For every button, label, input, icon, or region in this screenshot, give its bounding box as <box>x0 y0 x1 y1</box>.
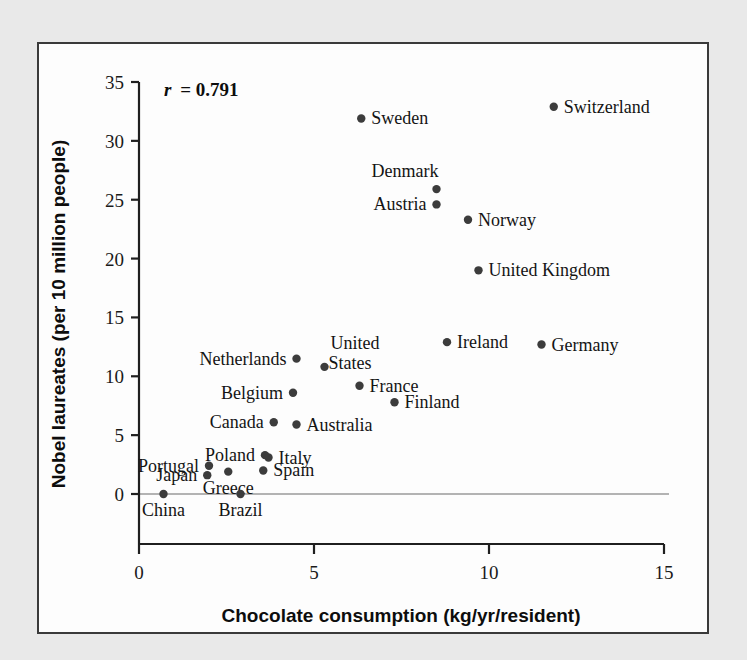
data-point[interactable]: Spain <box>259 460 314 480</box>
data-point-label: Finland <box>405 392 460 412</box>
x-tick-label: 10 <box>480 562 499 583</box>
data-point-label: Canada <box>210 412 264 432</box>
data-point[interactable]: Belgium <box>221 383 297 403</box>
y-tick-label: 15 <box>105 307 124 328</box>
data-point-dot[interactable] <box>270 418 278 426</box>
scatter-plot: 05101520253035 051015 SwitzerlandSwedenD… <box>39 44 707 632</box>
data-point-label: Netherlands <box>200 349 287 369</box>
data-point-dot[interactable] <box>159 490 167 498</box>
data-point-dot[interactable] <box>390 398 398 406</box>
data-point-label: Norway <box>478 210 536 230</box>
data-point[interactable]: UnitedStates <box>320 333 379 373</box>
data-point-label: Spain <box>273 460 314 480</box>
data-point-dot[interactable] <box>550 103 558 111</box>
data-point[interactable]: Netherlands <box>200 349 301 369</box>
correlation-symbol: r <box>164 79 172 100</box>
data-point-dot[interactable] <box>203 471 211 479</box>
data-point-dot[interactable] <box>261 451 269 459</box>
y-tick-label: 35 <box>105 72 124 93</box>
data-point-dot[interactable] <box>443 338 451 346</box>
data-point-dot[interactable] <box>474 266 482 274</box>
data-point[interactable]: Poland <box>205 445 269 465</box>
data-point-label: UnitedStates <box>329 333 380 373</box>
data-point-dot[interactable] <box>224 467 232 475</box>
y-tick-label: 0 <box>115 484 125 505</box>
data-point-dot[interactable] <box>205 462 213 470</box>
y-tick-label: 30 <box>105 131 124 152</box>
data-point-dot[interactable] <box>292 354 300 362</box>
data-point-label: Austria <box>374 194 427 214</box>
data-point-dot[interactable] <box>320 363 328 371</box>
data-point-label: Brazil <box>219 500 263 520</box>
data-point[interactable]: Australia <box>292 415 372 435</box>
data-point-label: Japan <box>156 465 197 485</box>
y-tick-label: 5 <box>115 425 125 446</box>
y-tick-label: 20 <box>105 249 124 270</box>
data-point-dot[interactable] <box>289 389 297 397</box>
data-point-dot[interactable] <box>357 114 365 122</box>
data-point[interactable]: Ireland <box>443 332 508 352</box>
correlation-annotation: r = 0.791 <box>164 79 238 100</box>
chart-panel: 05101520253035 051015 SwitzerlandSwedenD… <box>37 42 709 634</box>
data-point[interactable]: United Kingdom <box>474 260 610 280</box>
data-point-label: Switzerland <box>564 97 650 117</box>
correlation-value: = 0.791 <box>180 79 238 100</box>
data-point-label: Greece <box>203 478 254 498</box>
data-point[interactable]: Greece <box>203 467 254 497</box>
data-point[interactable]: Austria <box>374 194 441 214</box>
data-point-label: Australia <box>307 415 373 435</box>
data-point[interactable]: Canada <box>210 412 278 432</box>
data-point-dot[interactable] <box>236 490 244 498</box>
x-tick-label: 5 <box>309 562 319 583</box>
y-axis-title: Nobel laureates (per 10 million people) <box>48 140 69 488</box>
y-axis-ticks: 05101520253035 <box>105 72 139 505</box>
x-tick-label: 15 <box>655 562 674 583</box>
data-point-dot[interactable] <box>259 466 267 474</box>
data-point[interactable]: Germany <box>537 335 618 355</box>
data-point-label: United Kingdom <box>489 260 611 280</box>
data-point-label: Poland <box>205 445 255 465</box>
y-tick-label: 10 <box>105 366 124 387</box>
data-point-label: China <box>142 500 185 520</box>
data-point-label: Denmark <box>372 161 439 181</box>
x-axis-title: Chocolate consumption (kg/yr/resident) <box>222 605 581 626</box>
data-point[interactable]: Sweden <box>357 108 428 128</box>
data-point[interactable]: Denmark <box>372 161 441 193</box>
data-point-dot[interactable] <box>432 185 440 193</box>
x-tick-label: 0 <box>134 562 144 583</box>
data-point-label: Sweden <box>371 108 428 128</box>
data-point-dot[interactable] <box>537 340 545 348</box>
data-point[interactable]: Switzerland <box>550 97 650 117</box>
data-point-label: Ireland <box>457 332 508 352</box>
data-point-dot[interactable] <box>432 200 440 208</box>
data-point-label: Belgium <box>221 383 283 403</box>
data-point-dot[interactable] <box>355 382 363 390</box>
data-point-group: SwitzerlandSwedenDenmarkAustriaNorwayUni… <box>138 97 650 520</box>
y-tick-label: 25 <box>105 190 124 211</box>
data-point-dot[interactable] <box>292 420 300 428</box>
data-point[interactable]: Norway <box>464 210 536 230</box>
x-axis-ticks: 051015 <box>134 544 673 583</box>
data-point-label: Germany <box>552 335 619 355</box>
data-point-dot[interactable] <box>464 216 472 224</box>
